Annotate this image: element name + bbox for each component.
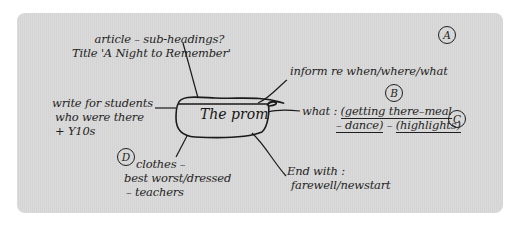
- branch-audience-line-3: + Y10s: [52, 124, 153, 138]
- branch-end-line-1: End with :: [287, 164, 390, 178]
- branch-what-item-highlights: (highlights): [396, 118, 461, 133]
- branch-inform-line-1: inform re when/where/what: [290, 64, 448, 78]
- branch-line-clothes: [176, 136, 187, 157]
- branch-article: article – sub-headings? Title 'A Night t…: [72, 32, 231, 60]
- branch-what: what : (getting there–meal – dance) – (h…: [302, 104, 461, 132]
- branch-clothes-line-2: best worst/dressed: [124, 171, 231, 185]
- branch-end: End with : farewell/newstart: [287, 164, 390, 192]
- branch-audience: write for students who were there + Y10s: [52, 96, 153, 138]
- branch-what-prefix: what :: [302, 104, 341, 118]
- branch-article-line-2: Title 'A Night to Remember': [72, 46, 231, 60]
- branch-what-separator: –: [387, 118, 393, 132]
- branch-clothes-line-1: clothes –: [124, 157, 231, 171]
- badge-a: A: [438, 26, 456, 44]
- center-node-label: The prom: [200, 106, 268, 122]
- branch-what-item-dance: – dance): [336, 118, 383, 133]
- branch-line-end: [252, 133, 286, 176]
- badge-b: B: [385, 84, 403, 102]
- branch-end-line-2: farewell/newstart: [287, 178, 390, 192]
- branch-clothes: clothes – best worst/dressed – teachers: [124, 157, 231, 199]
- branch-what-line-1: what : (getting there–meal: [302, 104, 461, 118]
- branch-what-item-getting-there: (getting there–meal: [341, 104, 452, 119]
- branch-audience-line-2: who were there: [52, 110, 153, 124]
- branch-what-line-2: – dance) – (highlights): [302, 118, 461, 132]
- branch-inform: inform re when/where/what: [290, 64, 448, 78]
- branch-line-what: [268, 110, 300, 112]
- branch-audience-line-1: write for students: [52, 96, 153, 110]
- branch-article-line-1: article – sub-headings?: [72, 32, 231, 46]
- branch-clothes-line-3: – teachers: [124, 185, 231, 199]
